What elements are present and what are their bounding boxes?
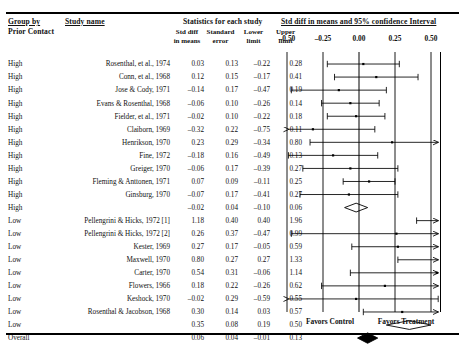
effect-marker [349, 167, 351, 169]
effect-marker [338, 89, 340, 91]
favors-treatment-label: Favors Treatment [368, 317, 444, 326]
favors-control-label: Favors Control [295, 317, 365, 326]
effect-marker [375, 76, 377, 78]
effect-marker [332, 154, 334, 156]
effect-marker [368, 180, 370, 182]
effect-marker [401, 311, 403, 313]
effect-marker [436, 272, 438, 274]
effect-marker [312, 128, 314, 130]
bottom-rule [6, 333, 459, 335]
subtotal-diamond [345, 203, 368, 212]
effect-marker [355, 298, 357, 300]
effect-marker [362, 63, 364, 65]
effect-marker [384, 285, 386, 287]
effect-marker [397, 246, 399, 248]
effect-marker [355, 115, 357, 117]
forest-plot-canvas [0, 0, 465, 348]
effect-marker [349, 102, 351, 104]
forest-plot-sheet: Group by Prior Contact Study name Statis… [0, 0, 465, 348]
effect-marker [348, 193, 350, 195]
effect-marker [391, 141, 393, 143]
effect-marker [395, 233, 397, 235]
